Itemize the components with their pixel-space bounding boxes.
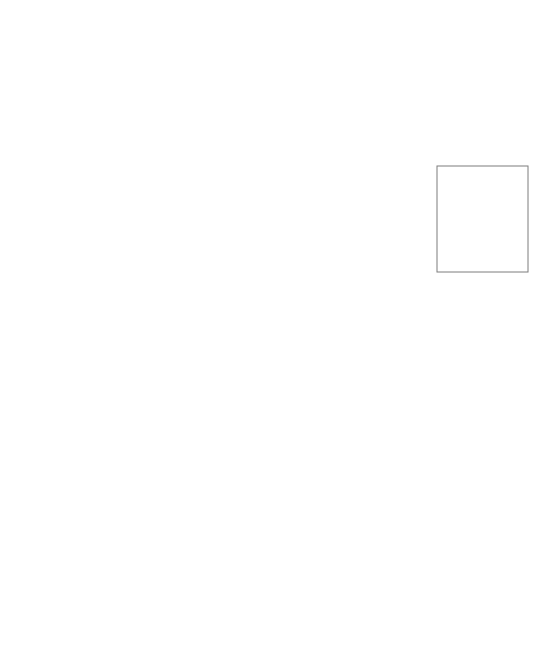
- annotation-callout: [437, 166, 528, 272]
- confidence-interval-plot: [0, 0, 559, 651]
- annotation-box: [437, 166, 528, 272]
- figure-root: [0, 0, 559, 651]
